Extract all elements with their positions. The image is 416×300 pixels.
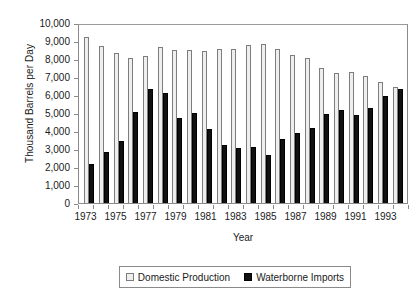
x-tick-mark bbox=[153, 205, 154, 209]
x-axis-ticks: 1973197519771979198119831985198719891991… bbox=[78, 205, 408, 227]
bar-waterborne-imports bbox=[236, 148, 241, 203]
x-tick-mark bbox=[378, 205, 379, 209]
y-tick-label: 10,000 bbox=[14, 19, 70, 29]
bar-waterborne-imports bbox=[89, 164, 94, 203]
x-tick-mark bbox=[198, 205, 199, 209]
bar-chart-figure: Thousand Barrels per Day 10,0009,0008,00… bbox=[0, 0, 416, 300]
bar-waterborne-imports bbox=[339, 110, 344, 203]
x-tick-mark bbox=[243, 205, 244, 209]
bar-waterborne-imports bbox=[310, 128, 315, 203]
x-tick-mark bbox=[393, 205, 394, 209]
legend-entry: Waterborne Imports bbox=[244, 272, 344, 283]
bar-waterborne-imports bbox=[354, 115, 359, 203]
bar-waterborne-imports bbox=[207, 129, 212, 203]
x-tick-mark bbox=[213, 205, 214, 209]
legend-label: Waterborne Imports bbox=[256, 272, 344, 283]
y-tick-label: 8,000 bbox=[14, 55, 70, 65]
legend-swatch-domestic-production bbox=[126, 273, 134, 281]
legend-label: Domestic Production bbox=[138, 272, 230, 283]
x-tick-mark bbox=[318, 205, 319, 209]
bar-waterborne-imports bbox=[383, 96, 388, 203]
legend-swatch-waterborne-imports bbox=[244, 273, 252, 281]
year-group bbox=[390, 25, 405, 203]
chart-legend: Domestic ProductionWaterborne Imports bbox=[119, 266, 351, 288]
x-tick-mark bbox=[108, 205, 109, 209]
year-group bbox=[317, 25, 332, 203]
bar-waterborne-imports bbox=[163, 93, 168, 203]
x-tick-mark bbox=[273, 205, 274, 209]
y-tick-label: 6,000 bbox=[14, 91, 70, 101]
bar-waterborne-imports bbox=[177, 118, 182, 203]
y-tick-label: 7,000 bbox=[14, 73, 70, 83]
x-tick-mark bbox=[288, 205, 289, 209]
x-tick-label: 1993 bbox=[366, 211, 406, 222]
year-group bbox=[155, 25, 170, 203]
year-group bbox=[288, 25, 303, 203]
y-tick-label: 9,000 bbox=[14, 37, 70, 47]
bar-waterborne-imports bbox=[368, 108, 373, 203]
y-tick-label: 3,000 bbox=[14, 145, 70, 155]
bar-waterborne-imports bbox=[295, 133, 300, 203]
x-tick-mark bbox=[228, 205, 229, 209]
year-group bbox=[376, 25, 391, 203]
year-group bbox=[332, 25, 347, 203]
bar-waterborne-imports bbox=[251, 147, 256, 203]
bar-waterborne-imports bbox=[222, 145, 227, 203]
plot-area bbox=[78, 24, 408, 204]
bar-waterborne-imports bbox=[133, 112, 138, 203]
year-group bbox=[214, 25, 229, 203]
year-group bbox=[302, 25, 317, 203]
year-group bbox=[111, 25, 126, 203]
x-tick-mark bbox=[348, 205, 349, 209]
bar-waterborne-imports bbox=[266, 155, 271, 203]
x-tick-mark bbox=[303, 205, 304, 209]
year-group bbox=[185, 25, 200, 203]
bar-waterborne-imports bbox=[192, 113, 197, 203]
year-group bbox=[273, 25, 288, 203]
year-group bbox=[82, 25, 97, 203]
y-tick-label: 0 bbox=[14, 199, 70, 209]
legend-entry: Domestic Production bbox=[126, 272, 230, 283]
x-tick-mark bbox=[363, 205, 364, 209]
y-axis-title: Thousand Barrels per Day bbox=[24, 9, 35, 199]
x-tick-mark bbox=[333, 205, 334, 209]
bars-container bbox=[79, 25, 407, 203]
x-axis-title: Year bbox=[78, 232, 408, 243]
year-group bbox=[361, 25, 376, 203]
year-group bbox=[126, 25, 141, 203]
x-tick-mark bbox=[93, 205, 94, 209]
year-group bbox=[229, 25, 244, 203]
year-group bbox=[97, 25, 112, 203]
bar-waterborne-imports bbox=[119, 141, 124, 203]
bar-waterborne-imports bbox=[104, 152, 109, 203]
year-group bbox=[258, 25, 273, 203]
year-group bbox=[244, 25, 259, 203]
year-group bbox=[346, 25, 361, 203]
y-tick-label: 5,000 bbox=[14, 109, 70, 119]
year-group bbox=[170, 25, 185, 203]
year-group bbox=[200, 25, 215, 203]
x-tick-mark bbox=[138, 205, 139, 209]
bar-waterborne-imports bbox=[280, 139, 285, 203]
bar-waterborne-imports bbox=[324, 114, 329, 203]
x-tick-mark bbox=[258, 205, 259, 209]
bar-waterborne-imports bbox=[398, 89, 403, 203]
x-tick-mark bbox=[78, 205, 79, 209]
x-tick-mark bbox=[408, 205, 409, 209]
y-tick-label: 2,000 bbox=[14, 163, 70, 173]
x-tick-mark bbox=[123, 205, 124, 209]
x-tick-mark bbox=[183, 205, 184, 209]
x-tick-mark bbox=[168, 205, 169, 209]
y-tick-label: 1,000 bbox=[14, 181, 70, 191]
bar-waterborne-imports bbox=[148, 89, 153, 203]
year-group bbox=[141, 25, 156, 203]
y-tick-label: 4,000 bbox=[14, 127, 70, 137]
